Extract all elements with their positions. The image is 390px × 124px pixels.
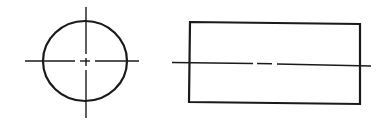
drawing-canvas bbox=[0, 0, 390, 124]
technical-drawing bbox=[0, 0, 390, 124]
side-view-axis-line bbox=[172, 63, 371, 67]
